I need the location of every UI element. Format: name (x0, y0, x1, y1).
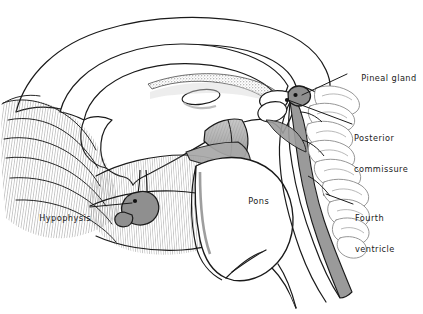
pons-outline (192, 158, 294, 281)
label-fourth-ventricle-line2: ventricle (355, 244, 395, 254)
label-posterior-commissure: Posterior commissure (354, 113, 408, 195)
pineal-gland-marker-dot (293, 93, 297, 97)
label-hypophysis-text: Hypophysis (39, 213, 91, 223)
label-posterior-commissure-line1: Posterior (354, 133, 408, 143)
label-fourth-ventricle-line1: Fourth (355, 213, 395, 223)
label-pineal-gland: Pineal gland (349, 63, 417, 94)
label-hypophysis: Hypophysis (27, 203, 91, 234)
hypophysis-marker-dot (133, 199, 137, 203)
label-pineal-gland-text: Pineal gland (361, 73, 416, 83)
label-pons: Pons (236, 186, 269, 217)
label-pons-text: Pons (248, 196, 269, 206)
label-fourth-ventricle: Fourth ventricle (355, 193, 395, 275)
anatomical-figure: Pineal gland Posterior commissure Fourth… (0, 0, 423, 314)
label-posterior-commissure-line2: commissure (354, 164, 408, 174)
